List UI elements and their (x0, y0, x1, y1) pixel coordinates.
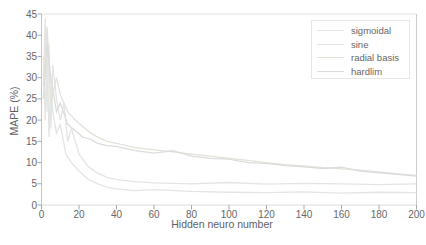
legend-entry-hardlim: hardlim (317, 65, 409, 79)
x-tick-label: 60 (148, 209, 159, 220)
legend-label: radial basis (351, 52, 399, 63)
x-tick-label: 160 (333, 209, 350, 220)
legend-line-sample (317, 71, 344, 72)
y-tick-label: 30 (0, 72, 37, 83)
x-tick-label: 120 (258, 209, 275, 220)
y-tick-label: 15 (0, 136, 37, 147)
y-tick-label: 0 (0, 200, 37, 211)
x-tick-label: 200 (408, 209, 425, 220)
y-tick-label: 25 (0, 93, 37, 104)
legend: sigmoidalsineradial basishardlim (311, 20, 410, 79)
y-tick-label: 20 (0, 115, 37, 126)
legend-line-sample (317, 44, 344, 45)
y-tick-label: 45 (0, 9, 37, 20)
legend-label: sine (351, 39, 368, 50)
legend-line-sample (317, 30, 344, 31)
y-tick-label: 40 (0, 30, 37, 41)
y-tick-label: 35 (0, 51, 37, 62)
legend-entry-radial-basis: radial basis (317, 51, 409, 65)
x-tick-label: 140 (296, 209, 313, 220)
legend-label: sigmoidal (351, 25, 391, 36)
y-tick-label: 5 (0, 178, 37, 189)
x-tick-label: 0 (39, 209, 45, 220)
x-tick-label: 40 (111, 209, 122, 220)
x-tick-label: 80 (186, 209, 197, 220)
x-tick-label: 180 (371, 209, 388, 220)
legend-line-sample (317, 57, 344, 58)
legend-entry-sine: sine (317, 38, 409, 52)
x-tick-label: 100 (221, 209, 238, 220)
legend-label: hardlim (351, 66, 382, 77)
x-tick-label: 20 (73, 209, 84, 220)
chart-figure: MAPE (%) Hidden neuro number 05101520253… (0, 0, 426, 245)
legend-entry-sigmoidal: sigmoidal (317, 24, 409, 38)
y-tick-label: 10 (0, 157, 37, 168)
